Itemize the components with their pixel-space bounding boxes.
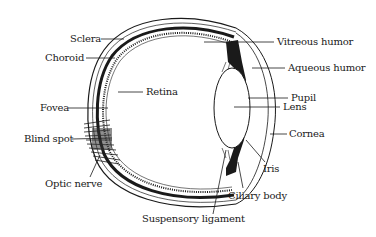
choroid-layer xyxy=(97,28,234,197)
label-retina: Retina xyxy=(146,86,178,98)
lens-outline xyxy=(214,68,250,148)
label-blind-spot: Blind spot xyxy=(24,133,73,145)
label-optic-nerve: Optic nerve xyxy=(45,178,102,190)
label-cornea: Cornea xyxy=(289,128,325,140)
label-suspensory-ligament: Suspensory ligament xyxy=(142,213,245,225)
label-iris: Iris xyxy=(263,163,279,175)
label-ciliary-body: Ciliary body xyxy=(228,190,287,202)
leader-iris xyxy=(246,140,265,162)
leader-ciliary xyxy=(238,162,243,188)
leader-suspensory xyxy=(213,150,226,214)
label-vitreous-humor: Vitreous humor xyxy=(277,36,353,48)
label-sclera: Sclera xyxy=(70,33,101,45)
eye-diagram: Sclera Choroid Retina Fovea Blind spot O… xyxy=(0,0,376,237)
label-aqueous-humor: Aqueous humor xyxy=(288,62,365,74)
retina-layer xyxy=(103,33,232,192)
label-choroid: Choroid xyxy=(45,52,84,64)
label-pupil: Pupil xyxy=(291,92,316,104)
label-fovea: Fovea xyxy=(40,102,69,114)
